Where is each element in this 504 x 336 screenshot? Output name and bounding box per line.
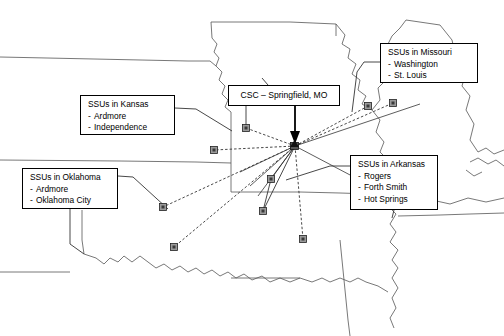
link-fan-stroke-4 <box>295 104 420 146</box>
csc-arrow <box>290 106 300 144</box>
list-item-label: Ardmore <box>94 111 126 121</box>
callout-missouri-list: -Washington -St. Louis <box>388 59 471 82</box>
leader-line-arkansas <box>286 166 350 180</box>
list-item: -Rogers <box>358 171 431 183</box>
callout-oklahoma-title: SSUs in Oklahoma <box>30 172 111 184</box>
leader-line-kansas <box>175 108 232 131</box>
list-item: -Ardmore <box>30 184 111 196</box>
list-item: -Oklahoma City <box>30 195 111 207</box>
leader-line-csc-top <box>262 78 268 85</box>
callout-kansas-title: SSUs in Kansas <box>88 99 168 111</box>
list-item-label: St. Louis <box>394 70 427 80</box>
callout-missouri-title: SSUs in Missouri <box>388 47 471 59</box>
river-bend-detail-2 <box>466 170 482 176</box>
mississippi-river <box>372 110 398 328</box>
list-item-label: Oklahoma City <box>36 195 91 205</box>
list-item-label: Ardmore <box>36 184 68 194</box>
list-item-label: Rogers <box>364 171 391 181</box>
bullet-dash: - <box>88 111 91 123</box>
callout-ssus-in-oklahoma[interactable]: SSUs in Oklahoma -Ardmore -Oklahoma City <box>22 168 118 209</box>
callout-ssus-in-kansas[interactable]: SSUs in Kansas -Ardmore -Independence <box>80 95 175 135</box>
callout-arkansas-title: SSUs in Arkansas <box>358 159 431 171</box>
callout-csc-title: CSC – Springfield, MO <box>241 90 328 102</box>
list-item: -Forth Smith <box>358 182 431 194</box>
list-item: -St. Louis <box>388 70 471 82</box>
list-item: -Hot Springs <box>358 194 431 206</box>
nebraska-kansas-border <box>0 57 210 61</box>
bullet-dash: - <box>30 195 33 207</box>
callout-ssus-in-arkansas[interactable]: SSUs in Arkansas -Rogers -Forth Smith -H… <box>350 155 438 210</box>
link-hub-kansas-ardmore <box>214 146 295 150</box>
link-fan-stroke-3 <box>240 146 295 172</box>
link-fan-stroke-1 <box>258 146 295 196</box>
list-item-label: Washington <box>394 59 438 69</box>
list-item: -Independence <box>88 122 168 134</box>
link-hub-kansas-independence <box>246 128 295 146</box>
iowa-north-border <box>211 22 336 36</box>
illinois-east-border <box>406 20 504 154</box>
list-item: -Washington <box>388 59 471 71</box>
ssu-node-missouri-st-louis-core <box>392 102 395 105</box>
bullet-dash: - <box>388 70 391 82</box>
list-item-label: Independence <box>94 122 147 132</box>
callout-kansas-list: -Ardmore -Independence <box>88 111 168 134</box>
ssu-node-kansas-ardmore-core <box>213 149 216 152</box>
bullet-dash: - <box>358 194 361 206</box>
river-bend-detail <box>470 158 504 166</box>
callout-ssus-in-missouri[interactable]: SSUs in Missouri -Washington -St. Louis <box>380 43 478 83</box>
csc-hub-marker[interactable] <box>290 140 299 150</box>
bullet-dash: - <box>358 182 361 194</box>
bullet-dash: - <box>88 122 91 134</box>
bullet-dash: - <box>388 59 391 71</box>
list-item: -Ardmore <box>88 111 168 123</box>
ssu-node-oklahoma-ardmore-core <box>173 246 176 249</box>
ssu-node-arkansas-forth-smith-core <box>262 210 265 213</box>
link-hub-arkansas-hot-springs <box>295 146 303 239</box>
kansas-oklahoma-border <box>0 160 231 163</box>
ssu-node-arkansas-hot-springs-core <box>302 238 305 241</box>
ssu-node-arkansas-rogers-core <box>270 178 273 181</box>
link-hub-oklahoma-ardmore <box>174 146 295 247</box>
tennessee-north-border <box>398 213 504 216</box>
arkansas-texas-border <box>366 282 388 292</box>
ssu-node-missouri-washington-core <box>367 105 370 108</box>
kansas-iowa-connector <box>210 61 216 66</box>
link-hub-missouri-washington <box>295 106 368 146</box>
list-item-label: Forth Smith <box>364 182 407 192</box>
list-item-label: Hot Springs <box>364 194 408 204</box>
texas-east-border <box>340 240 350 336</box>
bullet-dash: - <box>30 184 33 196</box>
ssu-node-oklahoma-oklahoma-city-core <box>162 206 165 209</box>
network-map-diagram: CSC – Springfield, MO SSUs in Kansas -Ar… <box>0 0 504 336</box>
callout-arkansas-list: -Rogers -Forth Smith -Hot Springs <box>358 171 431 206</box>
oklahoma-south-border <box>82 210 366 282</box>
bullet-dash: - <box>358 171 361 183</box>
link-fan-stroke-5 <box>295 146 352 176</box>
callout-csc-springfield[interactable]: CSC – Springfield, MO <box>228 85 340 106</box>
ssu-node-kansas-independence-core <box>245 127 248 130</box>
callout-oklahoma-list: -Ardmore -Oklahoma City <box>30 184 111 207</box>
